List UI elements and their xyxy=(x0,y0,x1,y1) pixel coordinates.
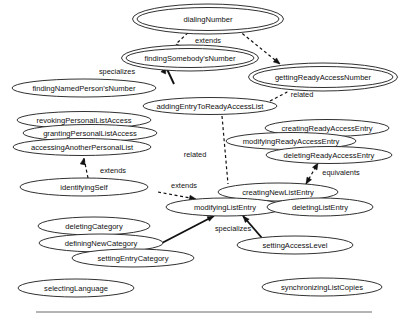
edge-identifyingSelf-extends-accessingAnother: extends xyxy=(80,158,127,178)
node-label: revokingPersonalListAccess xyxy=(37,116,132,125)
node-label: identifyingSelf xyxy=(60,183,108,192)
arrow-head-icon xyxy=(207,216,214,221)
node-label: settingEntryCategory xyxy=(98,254,169,263)
node-label: deletingReadyAccessEntry xyxy=(284,151,375,160)
node-gettingReadyAccessNumber[interactable]: gettingReadyAccessNumber xyxy=(249,63,398,91)
node-label: addingEntryToReadyAccessList xyxy=(157,102,265,111)
arrow-head-icon xyxy=(312,163,318,170)
node-synchronizingListCopies[interactable]: synchronizingListCopies xyxy=(262,278,382,296)
node-label: creatingNewListEntry xyxy=(242,188,314,197)
node-findingSomebodysNumber[interactable]: findingSomebody'sNumber xyxy=(122,45,259,71)
node-deletingListEntry[interactable]: deletingListEntry xyxy=(267,198,373,216)
edge-line xyxy=(160,216,214,244)
node-addingEntryToReadyAccessList[interactable]: addingEntryToReadyAccessList xyxy=(143,98,277,115)
node-label: deletingListEntry xyxy=(292,203,348,212)
edge-definingNewCategory-specializes-modifyingListEntry: specializes xyxy=(160,216,255,244)
edge-label: specializes xyxy=(215,224,251,233)
node-label: dialingNumber xyxy=(184,15,233,24)
node-dialingNumber[interactable]: dialingNumber xyxy=(133,4,284,34)
node-deletingReadyAccessEntry[interactable]: deletingReadyAccessEntry xyxy=(266,147,392,164)
node-label: modifyingListEntry xyxy=(194,203,256,212)
node-modifyingListEntry[interactable]: modifyingListEntry xyxy=(166,198,284,216)
node-label: creatingReadyAccessEntry xyxy=(281,124,372,133)
edge-label: extends xyxy=(100,166,126,175)
node-identifyingSelf[interactable]: identifyingSelf xyxy=(20,178,148,196)
node-settingAccessLevel[interactable]: settingAccessLevel xyxy=(237,236,353,254)
node-accessingAnotherPersonalList[interactable]: accessingAnotherPersonalList xyxy=(13,139,151,156)
edge-label: related xyxy=(291,90,314,99)
edge-deletingReadyAccessEntry-equivalents-creatingNewListEntry: equivalents xyxy=(306,163,363,184)
node-deletingCategory[interactable]: deletingCategory xyxy=(38,217,150,235)
node-label: modifyingReadyAccessEntry xyxy=(243,137,340,146)
node-label: accessingAnotherPersonalList xyxy=(31,143,134,152)
edge-label: extends xyxy=(195,36,221,45)
node-label: settingAccessLevel xyxy=(262,241,327,250)
node-label: findingSomebody'sNumber xyxy=(145,54,236,63)
edge-identifyingSelf-extends-creatingNewListEntry: extends xyxy=(158,181,198,200)
edge-label: equivalents xyxy=(322,168,360,177)
node-label: deletingCategory xyxy=(65,222,123,231)
node-findingNamedPersonsNumber[interactable]: findingNamedPerson'sNumber xyxy=(12,79,156,97)
edge-line xyxy=(222,116,228,184)
node-label: gettingReadyAccessNumber xyxy=(275,73,372,82)
edge-label: extends xyxy=(171,181,197,190)
node-label: synchronizingListCopies xyxy=(281,283,363,292)
arrow-tail-icon xyxy=(306,177,312,184)
node-label: findingNamedPerson'sNumber xyxy=(32,84,136,93)
edge-label: related xyxy=(184,150,207,159)
diagram-canvas: extendsspecializesrelatedrelatedextendse… xyxy=(0,0,408,320)
node-settingEntryCategory[interactable]: settingEntryCategory xyxy=(72,249,194,267)
edge-addingEntry-related-creatingNewListEntry: related xyxy=(181,116,228,184)
edge-label: specializes xyxy=(99,67,135,76)
relationship-diagram: extendsspecializesrelatedrelatedextendse… xyxy=(0,0,408,320)
node-label: grantingPersonalListAccess xyxy=(43,129,137,138)
node-label: selectingLanguage xyxy=(44,284,108,293)
node-selectingLanguage[interactable]: selectingLanguage xyxy=(18,279,134,297)
node-label: definingNewCategory xyxy=(65,239,138,248)
